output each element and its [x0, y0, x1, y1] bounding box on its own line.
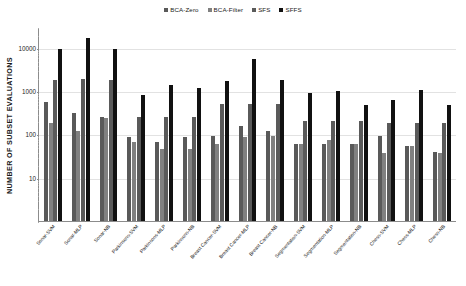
- y-axis-minor-tick: [38, 196, 40, 197]
- bar: [104, 118, 108, 221]
- y-axis-tick: [37, 135, 40, 136]
- bar-group: [289, 28, 317, 221]
- x-axis-label-cell: Breast Cancer-MLP: [233, 223, 261, 285]
- y-axis-minor-tick: [38, 62, 40, 63]
- bar-group: [317, 28, 345, 221]
- bar: [266, 131, 270, 221]
- y-axis-minor-tick: [38, 96, 40, 97]
- bar: [410, 146, 414, 221]
- bar: [164, 117, 168, 221]
- plot-area: [39, 28, 456, 221]
- x-axis-label-cell: Parkinsons-SVM: [122, 223, 150, 285]
- bar: [276, 104, 280, 221]
- y-axis-minor-tick: [38, 36, 40, 37]
- bar: [127, 137, 131, 221]
- legend-item-label: BCA-Zero: [170, 7, 198, 13]
- bar: [109, 80, 113, 221]
- bar-group: [373, 28, 401, 221]
- x-axis-label-cell: Chess-MLP: [400, 223, 428, 285]
- bar: [391, 100, 395, 221]
- bar: [197, 88, 201, 221]
- plot-frame: 10100100010000: [38, 28, 456, 222]
- y-axis-minor-tick: [38, 71, 40, 72]
- y-axis-tick-label: 10000: [18, 46, 36, 52]
- bar: [359, 121, 363, 221]
- x-axis-tick-label: Chess-MLP: [397, 224, 418, 246]
- bar: [137, 117, 141, 221]
- y-axis-minor-tick: [38, 181, 40, 182]
- x-axis-label-cell: Chess-SVM: [372, 223, 400, 285]
- y-axis-minor-tick: [38, 94, 40, 95]
- bar: [415, 123, 419, 221]
- bar-group: [122, 28, 150, 221]
- bar: [160, 149, 164, 221]
- bar-group: [400, 28, 428, 221]
- legend-item-label: BCA-Filter: [214, 7, 244, 13]
- bar-group: [345, 28, 373, 221]
- y-axis-tick-label: 10: [29, 176, 36, 182]
- bar: [303, 121, 307, 221]
- bar: [447, 105, 451, 221]
- y-axis-minor-tick: [38, 109, 40, 110]
- y-axis-minor-tick: [38, 188, 40, 189]
- y-axis-minor-tick: [38, 145, 40, 146]
- x-axis-tick-label: Sonar-MLP: [63, 224, 83, 246]
- bar-chart: BCA-ZeroBCA-FilterSFSSFFS NUMBER OF SUBS…: [0, 0, 466, 286]
- bar: [44, 102, 48, 221]
- bar: [382, 153, 386, 221]
- bar: [442, 123, 446, 221]
- bar: [378, 136, 382, 221]
- y-axis-minor-tick: [38, 51, 40, 52]
- bar: [327, 140, 331, 221]
- y-axis-minor-tick: [38, 142, 40, 143]
- bar: [132, 142, 136, 221]
- bar: [336, 91, 340, 221]
- legend-item: BCA-Zero: [164, 7, 198, 13]
- bar: [100, 117, 104, 221]
- y-axis-minor-tick: [38, 28, 40, 29]
- x-axis-label-cell: Segmentation-NB: [344, 223, 372, 285]
- bar-group: [95, 28, 123, 221]
- x-axis-tick-label: Chess-SVM: [369, 224, 390, 247]
- legend-swatch-icon: [279, 8, 283, 12]
- y-axis-tick: [37, 179, 40, 180]
- bar: [299, 144, 303, 221]
- y-axis-minor-tick: [38, 140, 40, 141]
- bar-groups: [39, 28, 456, 221]
- y-axis-tick-label: 1000: [22, 89, 36, 95]
- legend-item: SFFS: [279, 7, 301, 13]
- chart-legend: BCA-ZeroBCA-FilterSFSSFFS: [0, 7, 466, 13]
- bar: [405, 146, 409, 221]
- y-axis-minor-tick: [38, 55, 40, 56]
- bar: [169, 85, 173, 221]
- bar: [113, 49, 117, 221]
- bar: [271, 136, 275, 221]
- x-axis-label-cell: Parkinsons-MLP: [149, 223, 177, 285]
- bar: [308, 93, 312, 221]
- x-axis-tick-label: Sonar-SVM: [35, 224, 56, 246]
- y-axis-minor-tick: [38, 183, 40, 184]
- bar: [248, 104, 252, 221]
- legend-swatch-icon: [208, 8, 212, 12]
- y-axis-minor-tick: [38, 148, 40, 149]
- bar: [419, 90, 423, 221]
- legend-item-label: SFFS: [285, 7, 301, 13]
- bar: [438, 153, 442, 221]
- y-axis-minor-tick: [38, 209, 40, 210]
- bar: [294, 144, 298, 221]
- bar: [53, 80, 57, 221]
- y-axis-minor-tick: [38, 166, 40, 167]
- bar: [86, 38, 90, 221]
- bar: [225, 81, 229, 221]
- y-axis-tick: [37, 92, 40, 93]
- y-axis-minor-tick: [38, 201, 40, 202]
- bar: [239, 126, 243, 221]
- x-axis-label-cell: Segmentation-MLP: [317, 223, 345, 285]
- y-axis-minor-tick: [38, 115, 40, 116]
- legend-item-label: SFS: [258, 7, 270, 13]
- bar: [243, 137, 247, 221]
- y-axis-minor-tick: [38, 79, 40, 80]
- legend-item: BCA-Filter: [208, 7, 244, 13]
- y-axis-minor-tick: [38, 102, 40, 103]
- y-axis-minor-tick: [38, 185, 40, 186]
